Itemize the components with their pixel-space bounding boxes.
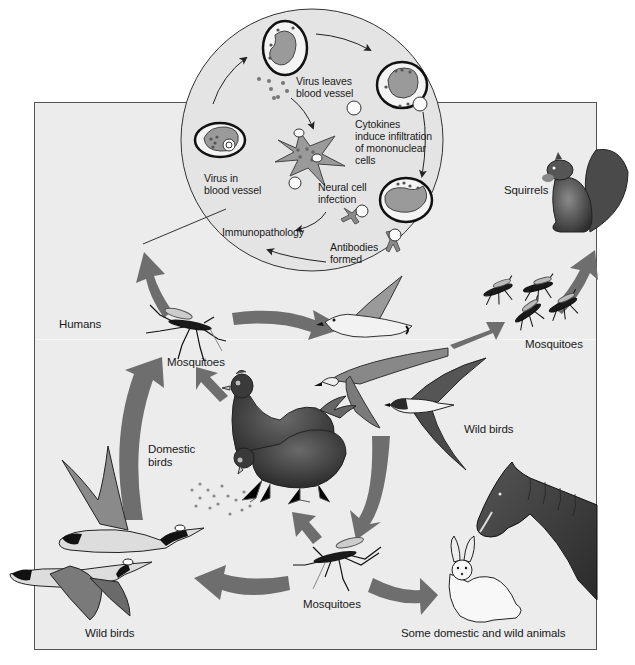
label-virus-in-blood-vessel: Virus in blood vessel: [204, 172, 261, 196]
blood-vessel-cell-icon: [380, 178, 432, 222]
label-line: infection: [318, 193, 367, 205]
label-line: Domestic: [148, 443, 195, 456]
arrow-mosquitoes-to-animals: [368, 578, 438, 615]
label-line: Cytokines: [355, 118, 432, 130]
squirrel-icon: [542, 149, 628, 232]
label-virus-leaves-blood-vessel: Virus leaves blood vessel: [296, 75, 353, 99]
label-wild-birds-left: Wild birds: [85, 627, 134, 640]
rabbit-icon: [449, 536, 521, 622]
label-line: of mononuclear: [355, 142, 432, 154]
label-line: induce infiltration: [355, 130, 432, 142]
label-domestic-wild-animals: Some domestic and wild animals: [401, 627, 565, 640]
goose-icon: [10, 559, 152, 620]
arrow-mosquitoes-to-domestic: [292, 512, 322, 544]
seabird-icon: [316, 276, 412, 337]
label-wild-birds-right: Wild birds: [464, 423, 513, 436]
swallow-icon: [384, 358, 486, 470]
label-line: Virus leaves: [296, 75, 353, 87]
seed-scatter-icon: [190, 482, 251, 515]
label-line: Antibodies: [330, 241, 378, 253]
label-humans: Humans: [59, 318, 101, 331]
arrow-to-mosquitoes-right: [450, 322, 505, 349]
mosquito-icon: [293, 535, 381, 591]
arrow-mosquitoes-to-wild-birds: [194, 565, 290, 600]
chicken-icon: [222, 370, 356, 504]
label-line: formed: [330, 253, 378, 265]
diagram-artwork: [0, 0, 635, 665]
arrow-to-humans: [136, 252, 172, 318]
label-line: Neural cell: [318, 181, 367, 193]
label-cytokines: Cytokines induce infiltration of mononuc…: [355, 118, 432, 166]
label-line: Virus in: [204, 172, 261, 184]
label-mosquitoes-right: Mosquitoes: [525, 338, 583, 351]
arrow-domestic-to-mosquitoes: [196, 367, 228, 402]
label-mosquitoes-bottom: Mosquitoes: [303, 598, 361, 611]
label-domestic-birds: Domestic birds: [148, 443, 195, 469]
arrow-birds-to-mosquitoes-bottom: [350, 436, 390, 540]
mosquito-icon: [146, 305, 226, 361]
label-line: blood vessel: [204, 184, 261, 196]
label-line: cells: [355, 154, 432, 166]
arrow-wild-birds-to-mosquitoes: [119, 357, 164, 520]
label-line: blood vessel: [296, 87, 353, 99]
label-antibodies-formed: Antibodies formed: [330, 241, 378, 265]
label-neural-cell-infection: Neural cell infection: [318, 181, 367, 205]
label-line: birds: [148, 456, 195, 469]
label-squirrels: Squirrels: [504, 184, 548, 197]
blood-vessel-cell-icon: [195, 123, 245, 157]
label-mosquitoes-top: Mosquitoes: [167, 356, 225, 369]
label-immunopathology: Immunopathology: [222, 226, 304, 238]
